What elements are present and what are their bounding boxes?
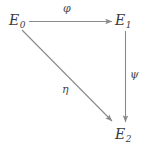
node-label-e1: E1 — [115, 13, 131, 30]
node-e2-subscript: 2 — [126, 134, 132, 144]
node-e1-base: E — [115, 12, 125, 28]
node-label-e0: E0 — [9, 13, 25, 30]
edge-label-psi: ψ — [130, 69, 139, 80]
node-label-e2: E2 — [115, 127, 131, 144]
commutative-diagram: E0 E1 E2 φ ψ η — [0, 0, 144, 148]
node-e0-subscript: 0 — [20, 20, 26, 30]
node-e1-subscript: 1 — [126, 20, 132, 30]
edge-label-eta: η — [62, 84, 69, 95]
node-e2-base: E — [115, 126, 125, 142]
edge-label-phi: φ — [63, 3, 71, 14]
node-e0-base: E — [9, 12, 19, 28]
arrow-eta-e0-to-e2 — [22, 30, 112, 121]
